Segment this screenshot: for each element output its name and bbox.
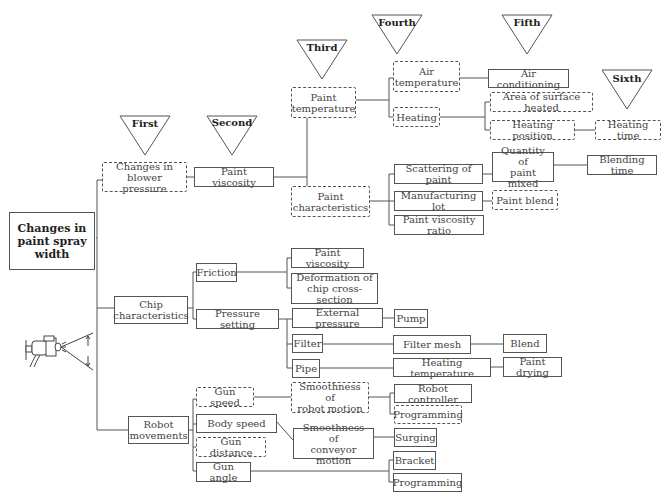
root-node: Changes in paint spray width — [9, 212, 95, 270]
node-friction: Friction — [196, 263, 237, 282]
node-heating-position: Heating position — [490, 120, 575, 140]
node-pump: Pump — [394, 309, 428, 328]
node-paint-viscosity-1: Paint viscosity — [194, 167, 274, 187]
node-air-conditioning: Air conditioning — [488, 69, 569, 88]
node-robot-movements: Robot movements — [128, 416, 189, 444]
node-area-surface-heated: Area of surface heated — [490, 92, 593, 112]
node-paint-characteristics: Paint characteristics — [291, 186, 370, 217]
node-gun-distance: Gun distance — [196, 437, 266, 457]
node-quantity-paint-mixed: Quantity of paint mixed — [492, 152, 554, 182]
node-paint-viscosity-2: Paint viscosity — [291, 248, 364, 268]
node-deformation-chip: Deformation of chip cross-section — [291, 273, 378, 304]
node-filter: Filter — [292, 334, 323, 353]
node-gun-speed: Gun speed — [196, 387, 254, 407]
node-programming-2: Programming — [393, 473, 462, 492]
node-heating-time: Heating time — [595, 120, 661, 140]
node-paint-drying: Paint drying — [503, 357, 562, 377]
node-blend: Blend — [503, 334, 547, 353]
spray-gun-icon — [26, 333, 93, 370]
node-heating: Heating — [393, 107, 440, 127]
node-scattering-of-paint: Scattering of paint — [394, 164, 483, 184]
node-air-temperature: Air temperature — [393, 61, 460, 92]
node-pressure-setting: Pressure setting — [196, 309, 279, 329]
node-smoothness-conveyor-motion: Smoothness of conveyor motion — [293, 428, 374, 459]
node-filter-mesh: Filter mesh — [393, 335, 471, 354]
node-robot-controller: Robot controller — [394, 384, 472, 403]
stage-label-fifth: Fifth — [497, 17, 557, 28]
node-pipe: Pipe — [292, 359, 320, 378]
node-body-speed: Body speed — [196, 414, 277, 433]
node-blending-time: Blending time — [587, 155, 657, 175]
stage-label-sixth: Sixth — [597, 73, 657, 84]
stage-label-second: Second — [202, 117, 262, 128]
node-paint-blend: Paint blend — [492, 190, 558, 210]
node-programming-1: Programming — [394, 405, 462, 424]
node-chip-characteristics: Chip characteristics — [114, 296, 188, 324]
node-external-pressure: External pressure — [292, 308, 383, 328]
node-smoothness-robot-motion: Smoothness of robot motion — [291, 382, 369, 413]
node-heating-temperature: Heating temperature — [393, 358, 491, 377]
stage-label-third: Third — [292, 42, 352, 53]
stage-label-first: First — [115, 118, 175, 129]
node-gun-angle: Gun angle — [196, 462, 251, 482]
node-blower-pressure: Changes in blower pressure — [102, 162, 187, 192]
node-surging: Surging — [394, 428, 437, 447]
node-bracket: Bracket — [393, 451, 436, 470]
stage-label-fourth: Fourth — [367, 17, 427, 28]
node-paint-temperature: Paint temperature — [291, 87, 356, 118]
node-paint-viscosity-ratio: Paint viscosity ratio — [394, 215, 484, 235]
node-manufacturing-lot: Manufacturing lot — [394, 191, 483, 211]
